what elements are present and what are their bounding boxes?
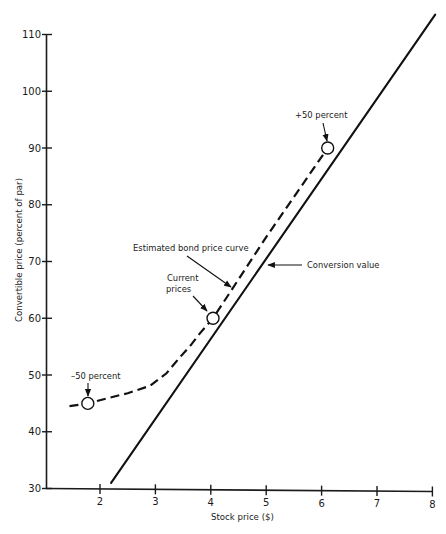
y-tick-label: 70 bbox=[28, 256, 41, 267]
y-tick-label: 80 bbox=[28, 199, 41, 210]
y-tick-label: 60 bbox=[28, 313, 41, 324]
plus-50-percent-label: +50 percent bbox=[295, 110, 348, 120]
x-axis-ticks: 2345678 bbox=[97, 484, 436, 510]
conversion-value-label: Conversion value bbox=[307, 260, 380, 270]
x-tick-label: 8 bbox=[429, 499, 435, 510]
marker-layer bbox=[82, 142, 334, 409]
x-tick-label: 3 bbox=[152, 496, 158, 507]
data-point-circle-icon bbox=[322, 142, 334, 154]
data-point-circle-icon bbox=[82, 397, 94, 409]
series-layer bbox=[70, 15, 436, 483]
current-prices-label: Current prices bbox=[166, 273, 201, 294]
y-axis-ticks: 30405060708090100110 bbox=[22, 29, 52, 494]
x-tick-label: 4 bbox=[208, 497, 214, 508]
arrow-icon bbox=[323, 123, 327, 141]
annotation-current-prices: Current prices bbox=[166, 273, 207, 311]
y-tick-label: 110 bbox=[22, 29, 41, 40]
y-axis-label: Convertible price (percent of par) bbox=[14, 178, 24, 322]
arrow-icon bbox=[193, 296, 207, 311]
minus-50-percent-label: –50 percent bbox=[71, 371, 121, 381]
y-tick-label: 40 bbox=[28, 426, 41, 437]
annotation-plus-50-percent: +50 percent bbox=[295, 110, 348, 141]
y-tick-label: 50 bbox=[28, 370, 41, 381]
y-tick-label: 90 bbox=[28, 143, 41, 154]
annotation-conversion-value: Conversion value bbox=[268, 260, 380, 270]
current-prices-line-2: prices bbox=[166, 284, 191, 294]
data-point-circle-icon bbox=[207, 312, 219, 324]
convertible-bond-chart: 30405060708090100110 2345678 Stock price… bbox=[0, 0, 446, 534]
estimated-bond-price-curve-label: Estimated bond price curve bbox=[133, 243, 249, 253]
x-tick-label: 6 bbox=[318, 498, 324, 509]
x-tick-label: 2 bbox=[97, 496, 103, 507]
x-axis bbox=[46, 489, 432, 492]
x-tick-label: 5 bbox=[263, 497, 269, 508]
y-tick-label: 100 bbox=[22, 86, 41, 97]
x-axis-label: Stock price ($) bbox=[211, 512, 274, 522]
annotation-minus-50-percent: –50 percent bbox=[71, 371, 121, 396]
y-tick-label: 30 bbox=[28, 483, 41, 494]
x-tick-label: 7 bbox=[374, 498, 380, 509]
current-prices-line-1: Current bbox=[167, 273, 199, 283]
